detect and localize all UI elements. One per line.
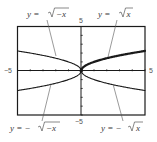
label-top-right: y = x (97, 8, 133, 19)
svg-text:y = −: y = − (100, 123, 122, 133)
curve-1 (81, 51, 145, 71)
curve-3 (81, 71, 145, 91)
y-max-tick-label: 5 (79, 17, 83, 24)
x-max-tick-label: 5 (149, 67, 153, 74)
svg-text:−x: −x (46, 123, 56, 133)
label-bottom-left: y = − −x (9, 122, 60, 133)
leader-line-top-left (47, 20, 56, 56)
svg-text:y = −: y = − (9, 123, 31, 133)
svg-text:y =: y = (97, 9, 110, 19)
curve-2 (18, 71, 82, 91)
svg-text:y =: y = (26, 9, 39, 19)
y-min-tick-label: −5 (75, 118, 83, 125)
svg-text:x: x (126, 9, 131, 19)
label-top-left: y = −x (26, 8, 69, 19)
svg-text:−x: −x (56, 9, 66, 19)
graphing-calculator-plot: 5 −5 −5 5 y = −x y = x y = − −x y = − x (0, 0, 157, 142)
leader-line-top-right (108, 20, 117, 57)
label-bottom-right: y = − x (100, 122, 143, 133)
curve-0 (18, 51, 82, 71)
origin-point (79, 69, 83, 73)
x-min-tick-label: −5 (4, 67, 12, 74)
svg-text:x: x (135, 123, 140, 133)
